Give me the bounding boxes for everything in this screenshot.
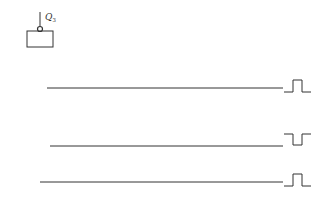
clear-pulse-icon — [284, 134, 311, 145]
not-gate — [27, 31, 53, 47]
register-circuit: Q3 — [0, 0, 332, 213]
read-pulse-icon — [284, 80, 311, 92]
store-pulse-icon — [284, 174, 311, 186]
output-label-q3: Q3 — [45, 12, 56, 23]
